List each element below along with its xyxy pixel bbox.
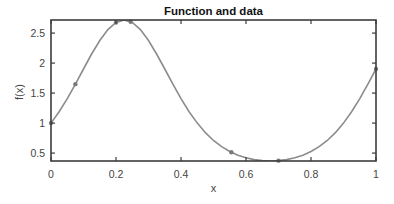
plot-area [49, 19, 378, 162]
y-tick-label: 1 [39, 117, 45, 129]
data-point [229, 150, 233, 154]
y-axis-ticks: 0.511.522.5 [30, 27, 376, 159]
y-tick-label: 2.5 [30, 27, 45, 39]
chart: Function and data 00.20.40.60.81 0.511.5… [0, 0, 394, 204]
x-tick-label: 0 [48, 168, 54, 180]
y-tick-label: 2 [39, 57, 45, 69]
chart-title: Function and data [164, 5, 264, 17]
function-line [51, 20, 376, 161]
x-tick-label: 0.4 [174, 168, 189, 180]
y-tick-label: 0.5 [30, 147, 45, 159]
x-tick-label: 0.6 [239, 168, 254, 180]
x-tick-label: 0.2 [109, 168, 124, 180]
y-axis-label: f(x) [13, 84, 25, 100]
data-point [73, 82, 77, 86]
x-axis-label: x [211, 182, 217, 194]
x-tick-label: 1 [373, 168, 379, 180]
x-tick-label: 0.8 [304, 168, 319, 180]
y-tick-label: 1.5 [30, 87, 45, 99]
